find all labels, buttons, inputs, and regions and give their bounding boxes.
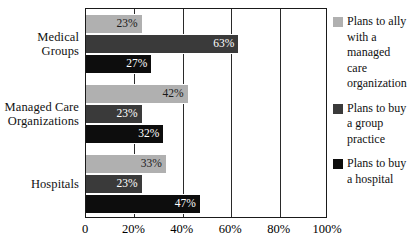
bar-value-label: 27%	[126, 58, 147, 70]
gridline	[280, 9, 281, 217]
legend-swatch-icon	[333, 17, 343, 27]
bar: 27%	[86, 54, 151, 74]
bar-value-label: 23%	[117, 108, 138, 120]
legend-item[interactable]: Plans to ally with a managed care organi…	[333, 14, 410, 92]
bar-value-label: 33%	[141, 158, 162, 170]
x-tick-label: 100%	[312, 222, 341, 236]
legend-label: Plans to buy a hospital	[347, 156, 410, 187]
bar-value-label: 47%	[175, 198, 196, 210]
bar-value-label: 63%	[213, 38, 234, 50]
bar-value-label: 23%	[117, 18, 138, 30]
legend-label: Plans to buy a group practice	[347, 101, 410, 148]
bar-chart: Medical Groups Managed Care Organization…	[0, 0, 410, 249]
bar: 23%	[86, 14, 142, 34]
bar-value-label: 42%	[163, 88, 184, 100]
legend-item[interactable]: Plans to buy a group practice	[333, 101, 410, 148]
bar: 63%	[86, 34, 238, 54]
bar: 23%	[86, 174, 142, 194]
category-label-medical-groups: Medical Groups	[37, 30, 79, 58]
x-tick-label: 20%	[122, 222, 145, 236]
bar: 32%	[86, 124, 163, 144]
bar: 42%	[86, 84, 188, 104]
bar: 23%	[86, 104, 142, 124]
legend-item[interactable]: Plans to buy a hospital	[333, 156, 410, 187]
legend-swatch-icon	[333, 104, 343, 114]
bar-value-label: 32%	[138, 128, 159, 140]
category-label-managed-care-organizations: Managed Care Organizations	[5, 100, 79, 128]
plot-area: 23%63%27%42%23%32%33%23%47%	[85, 8, 327, 218]
x-tick-label: 40%	[170, 222, 193, 236]
x-tick-label: 60%	[219, 222, 242, 236]
bar: 47%	[86, 194, 200, 214]
legend-swatch-icon	[333, 159, 343, 169]
bar-value-label: 23%	[117, 178, 138, 190]
bar: 33%	[86, 154, 166, 174]
x-tick-label: 80%	[267, 222, 290, 236]
category-label-hospitals: Hospitals	[31, 177, 79, 191]
x-tick-label: 0	[82, 222, 88, 236]
legend-label: Plans to ally with a managed care organi…	[347, 14, 410, 92]
legend: Plans to ally with a managed care organi…	[333, 14, 410, 196]
